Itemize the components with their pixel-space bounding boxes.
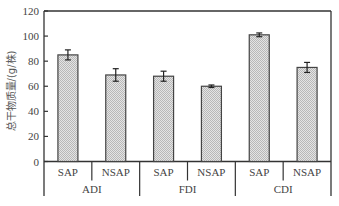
y-tick-label: 120: [23, 5, 40, 17]
x-sublabel: SAP: [153, 166, 173, 178]
x-sublabel: NSAP: [293, 166, 321, 178]
y-tick-label: 60: [28, 80, 40, 92]
y-tick-label: 40: [28, 105, 40, 117]
bars: [58, 33, 317, 162]
bar-chart: 020406080100120 SAPNSAPSAPNSAPSAPNSAPADI…: [0, 0, 339, 206]
x-sublabel: SAP: [249, 166, 269, 178]
x-group-label-cdi: CDI: [274, 183, 293, 195]
bar-cdi-nsap: [297, 67, 317, 161]
bar-fdi-sap: [154, 76, 174, 161]
bar-adi-sap: [58, 55, 78, 162]
bar-fdi-nsap: [201, 86, 221, 161]
bar-adi-nsap: [106, 75, 126, 162]
x-sublabel: NSAP: [102, 166, 130, 178]
x-sublabel: SAP: [58, 166, 78, 178]
bar-cdi-sap: [249, 35, 269, 162]
x-sublabel: NSAP: [197, 166, 225, 178]
x-group-label-fdi: FDI: [179, 183, 197, 195]
x-group-label-adi: ADI: [82, 183, 102, 195]
y-tick-label: 20: [28, 130, 40, 142]
y-tick-label: 80: [28, 55, 40, 67]
x-axis-labels: SAPNSAPSAPNSAPSAPNSAPADIFDICDI: [58, 162, 321, 197]
y-tick-label: 100: [23, 30, 40, 42]
y-tick-label: 0: [34, 156, 40, 168]
